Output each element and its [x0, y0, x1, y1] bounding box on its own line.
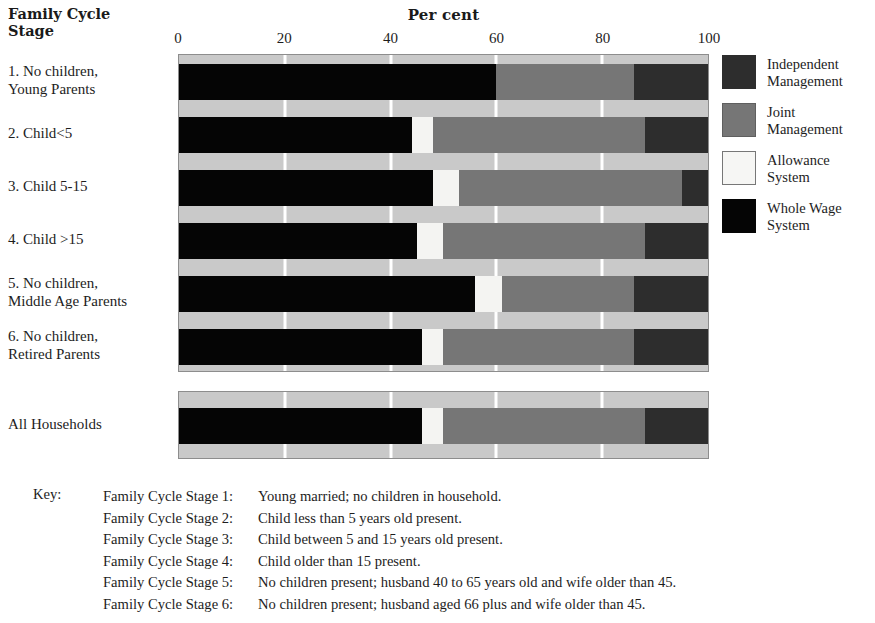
bar-segment-joint	[459, 170, 681, 206]
key-rows: Family Cycle Stage 1:Young married; no c…	[103, 486, 676, 615]
legend-item-independent: IndependentManagement	[722, 55, 872, 89]
key-row-stage-4: Family Cycle Stage 4:	[103, 551, 258, 573]
bar-5	[179, 276, 708, 312]
bar-segment-wholewage	[179, 408, 422, 444]
bar-segment-joint	[502, 276, 634, 312]
category-label-1: 1. No children,Young Parents	[8, 63, 176, 98]
legend-item-joint: JointManagement	[722, 103, 872, 137]
plot-area-main	[178, 54, 709, 372]
bar-2	[179, 117, 708, 153]
category-label-4: 4. Child >15	[8, 231, 176, 249]
x-axis-tick-40: 40	[383, 30, 398, 47]
category-label-6: 6. No children,Retired Parents	[8, 328, 176, 363]
legend-swatch-allowance-icon	[722, 151, 756, 185]
key-row-stage-2: Family Cycle Stage 2:	[103, 508, 258, 530]
legend-label-joint: JointManagement	[767, 103, 843, 137]
key-row-1: Family Cycle Stage 1:Young married; no c…	[103, 486, 676, 508]
plot-area-total	[178, 391, 709, 459]
bar-segment-allowance	[475, 276, 501, 312]
bar-segment-independent	[645, 117, 708, 153]
bar-segment-independent	[634, 329, 708, 365]
bar-segment-joint	[443, 408, 644, 444]
chart-figure: Family CycleStage Per cent 020406080100 …	[0, 0, 875, 623]
gridline-40	[389, 55, 392, 371]
bar-segment-joint	[433, 117, 645, 153]
gridline-80	[601, 55, 604, 371]
key-row-desc-6: No children present; husband aged 66 plu…	[258, 594, 676, 616]
key-row-desc-5: No children present; husband 40 to 65 ye…	[258, 572, 676, 594]
legend-label-wholewage: Whole WageSystem	[767, 199, 842, 233]
key-row-stage-1: Family Cycle Stage 1:	[103, 486, 258, 508]
bar-segment-wholewage	[179, 329, 422, 365]
bar-segment-joint	[496, 64, 634, 100]
bar-segment-wholewage	[179, 117, 412, 153]
y-axis-title: Family CycleStage	[8, 6, 168, 39]
key-row-4: Family Cycle Stage 4:Child older than 15…	[103, 551, 676, 573]
legend-swatch-joint-icon	[722, 103, 756, 137]
category-label-3: 3. Child 5-15	[8, 178, 176, 196]
legend-label-allowance: AllowanceSystem	[767, 151, 830, 185]
x-axis-tick-0: 0	[174, 30, 182, 47]
bar-segment-independent	[645, 408, 708, 444]
key-row-stage-3: Family Cycle Stage 3:	[103, 529, 258, 551]
key-row-desc-3: Child between 5 and 15 years old present…	[258, 529, 676, 551]
x-axis: 020406080100	[178, 30, 709, 52]
category-label-2: 2. Child<5	[8, 125, 176, 143]
gridline-20	[283, 55, 286, 371]
legend-swatch-wholewage-icon	[722, 199, 756, 233]
legend-swatch-independent-icon	[722, 55, 756, 89]
key-row-3: Family Cycle Stage 3:Child between 5 and…	[103, 529, 676, 551]
x-axis-tick-60: 60	[489, 30, 504, 47]
bar-segment-wholewage	[179, 276, 475, 312]
category-label-all-households: All Households	[8, 416, 176, 434]
bar-segment-allowance	[417, 223, 443, 259]
legend-item-allowance: AllowanceSystem	[722, 151, 872, 185]
legend-item-wholewage: Whole WageSystem	[722, 199, 872, 233]
bar-segment-allowance	[422, 408, 443, 444]
key-row-desc-4: Child older than 15 present.	[258, 551, 676, 573]
bar-segment-allowance	[412, 117, 433, 153]
gridline-60	[495, 55, 498, 371]
bar-segment-independent	[645, 223, 708, 259]
key-row-desc-2: Child less than 5 years old present.	[258, 508, 676, 530]
key-row-stage-6: Family Cycle Stage 6:	[103, 594, 258, 616]
key-row-6: Family Cycle Stage 6:No children present…	[103, 594, 676, 616]
legend: IndependentManagementJointManagementAllo…	[722, 55, 872, 247]
bar-segment-joint	[443, 329, 633, 365]
bar-segment-independent	[634, 276, 708, 312]
bar-segment-independent	[682, 170, 708, 206]
key-row-stage-5: Family Cycle Stage 5:	[103, 572, 258, 594]
bar-segment-allowance	[433, 170, 459, 206]
bar-segment-wholewage	[179, 223, 417, 259]
category-label-5: 5. No children,Middle Age Parents	[8, 275, 176, 310]
bar-4	[179, 223, 708, 259]
x-axis-tick-20: 20	[277, 30, 292, 47]
key-label: Key:	[33, 486, 61, 503]
bar-3	[179, 170, 708, 206]
bar-segment-allowance	[422, 329, 443, 365]
bar-segment-independent	[634, 64, 708, 100]
bar-6	[179, 329, 708, 365]
key-row-desc-1: Young married; no children in household.	[258, 486, 676, 508]
bar-segment-wholewage	[179, 170, 433, 206]
x-axis-tick-100: 100	[698, 30, 721, 47]
bar-1	[179, 64, 708, 100]
chart-title: Per cent	[178, 6, 709, 24]
key-row-2: Family Cycle Stage 2:Child less than 5 y…	[103, 508, 676, 530]
legend-label-independent: IndependentManagement	[767, 55, 843, 89]
key-row-5: Family Cycle Stage 5:No children present…	[103, 572, 676, 594]
bar-all-households	[179, 408, 708, 444]
bar-segment-wholewage	[179, 64, 496, 100]
x-axis-tick-80: 80	[595, 30, 610, 47]
bar-segment-joint	[443, 223, 644, 259]
